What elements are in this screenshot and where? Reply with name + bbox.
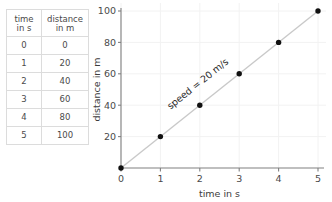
table-row: 0 0: [7, 37, 89, 55]
cell-time: 4: [7, 109, 42, 127]
x-tick-labels: 012345: [118, 173, 321, 184]
header-distance-line2: in m: [42, 24, 88, 33]
y-tick-label: 60: [104, 68, 116, 79]
data-point: [315, 8, 320, 13]
trend-line: [121, 11, 318, 168]
y-axis-title: distance in m: [92, 57, 102, 121]
figure-root: time in s distance in m 0 0 1 20 2 40: [0, 0, 332, 202]
table-row: 4 80: [7, 109, 89, 127]
cell-time: 3: [7, 91, 42, 109]
cell-distance: 40: [42, 73, 89, 91]
scatter-plot: 20406080100 012345 time in s distance in…: [92, 0, 332, 202]
x-tick-label: 0: [118, 173, 124, 184]
data-point: [158, 134, 163, 139]
table-row: 1 20: [7, 55, 89, 73]
y-tick-label: 20: [104, 131, 116, 142]
header-time-line2: in s: [7, 24, 41, 33]
speed-annotation: speed = 20 m/s: [165, 56, 231, 112]
cell-time: 1: [7, 55, 42, 73]
x-axis-title: time in s: [199, 188, 240, 199]
plot-svg: 20406080100 012345 time in s distance in…: [92, 0, 332, 202]
cell-distance: 80: [42, 109, 89, 127]
x-tick-label: 1: [157, 173, 163, 184]
table-header-distance: distance in m: [42, 10, 89, 37]
x-tick-label: 4: [276, 173, 282, 184]
table-row: 2 40: [7, 73, 89, 91]
data-point: [118, 165, 123, 170]
data-point: [197, 103, 202, 108]
table-header-row: time in s distance in m: [7, 10, 89, 37]
cell-distance: 60: [42, 91, 89, 109]
table-row: 5 100: [7, 127, 89, 145]
y-tick-label: 100: [98, 5, 116, 16]
cell-time: 0: [7, 37, 42, 55]
x-tick-label: 2: [197, 173, 203, 184]
data-point: [276, 40, 281, 45]
data-table: time in s distance in m 0 0 1 20 2 40: [6, 9, 89, 145]
cell-time: 2: [7, 73, 42, 91]
cell-distance: 20: [42, 55, 89, 73]
y-tick-label: 80: [104, 37, 116, 48]
data-point: [237, 71, 242, 76]
y-tick-label: 40: [104, 100, 116, 111]
table-header-time: time in s: [7, 10, 42, 37]
cell-time: 5: [7, 127, 42, 145]
x-tick-label: 3: [236, 173, 242, 184]
cell-distance: 100: [42, 127, 89, 145]
table-row: 3 60: [7, 91, 89, 109]
x-tick-label: 5: [315, 173, 321, 184]
cell-distance: 0: [42, 37, 89, 55]
